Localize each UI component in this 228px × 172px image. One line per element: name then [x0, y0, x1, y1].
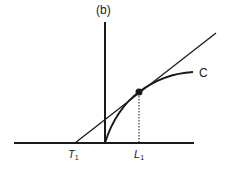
curve-label: C: [199, 67, 208, 79]
curve-c: [105, 72, 193, 143]
x-label-t1: T1: [68, 149, 79, 161]
diagram-canvas: [0, 0, 228, 172]
x-label-t1-sub: 1: [75, 154, 79, 161]
x-label-l1: L1: [134, 149, 144, 161]
tangency-point: [136, 89, 143, 96]
x-label-l1-sub: 1: [140, 154, 144, 161]
x-label-t1-main: T: [68, 148, 75, 160]
panel-label: (b): [96, 4, 111, 16]
